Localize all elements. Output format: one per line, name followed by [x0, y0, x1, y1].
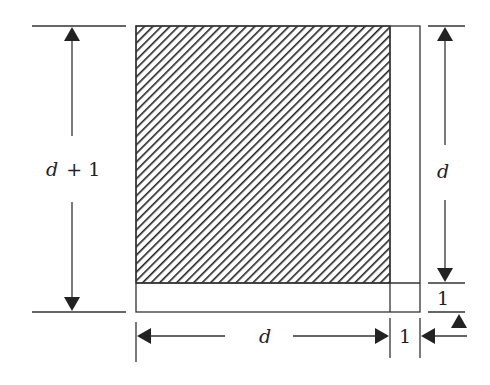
bottom-dimension: [136, 318, 467, 362]
right-one-label: 1: [437, 287, 449, 309]
arrow-down-icon: [437, 268, 453, 282]
arrow-up-icon: [437, 27, 453, 41]
right-d-label: d: [437, 160, 449, 182]
arrow-left-icon: [421, 328, 435, 344]
arrow-right-icon: [375, 328, 389, 344]
arrow-left-icon: [137, 328, 151, 344]
arrow-up-icon: [64, 27, 80, 41]
diagram-canvas: d+ 1 d 1 d 1: [0, 0, 490, 385]
bottom-one-label: 1: [399, 325, 411, 347]
arrow-up-icon: [451, 314, 467, 328]
arrow-down-icon: [64, 297, 80, 311]
hatched-square: [136, 26, 390, 283]
bottom-d-label: d: [259, 325, 271, 347]
left-dimension-label: d+ 1: [46, 158, 100, 180]
